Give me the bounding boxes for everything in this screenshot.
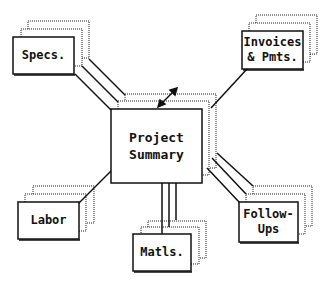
labor-label: Labor: [30, 213, 66, 228]
followups-node[interactable]: Follow- Ups: [239, 202, 298, 242]
invoices-label-line2: & Pmts.: [247, 50, 298, 65]
matls-node[interactable]: Matls.: [133, 234, 191, 271]
project-summary-node[interactable]: Project Summary: [111, 109, 202, 183]
followups-label-line2: Ups: [258, 222, 280, 237]
project-summary-line2: Summary: [129, 146, 184, 163]
specs-node[interactable]: Specs.: [13, 37, 74, 74]
invoices-node[interactable]: Invoices & Pmts.: [242, 31, 303, 69]
project-summary-line1: Project: [129, 129, 184, 146]
followups-label-line1: Follow-: [243, 207, 294, 222]
labor-node[interactable]: Labor: [18, 202, 79, 239]
specs-label: Specs.: [22, 48, 65, 63]
matls-label: Matls.: [140, 245, 183, 260]
invoices-label-line1: Invoices: [244, 35, 302, 50]
